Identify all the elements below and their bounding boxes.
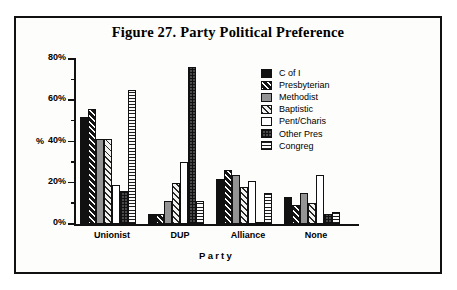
legend-item-label: Presbyterian: [279, 80, 330, 90]
bar: [80, 117, 88, 224]
bar: [96, 139, 104, 224]
bar-group-bars: [80, 59, 136, 224]
legend-item-label: Baptistic: [279, 104, 313, 114]
legend-swatch-icon: [261, 117, 272, 126]
bar: [232, 175, 240, 225]
bar: [148, 214, 156, 224]
bar: [256, 222, 264, 224]
legend-swatch-icon: [261, 129, 272, 138]
legend-item-label: C of I: [279, 68, 301, 78]
legend-swatch-icon: [261, 105, 272, 114]
legend-swatch-icon: [261, 93, 272, 102]
bar: [300, 193, 308, 224]
legend-item: Baptistic: [261, 103, 381, 115]
chart-legend: C of IPresbyterianMethodistBaptisticPent…: [261, 67, 381, 152]
figure-frame: Figure 27. Party Political Preference % …: [14, 16, 442, 274]
bar: [172, 183, 180, 224]
bar: [88, 109, 96, 225]
x-axis-line: [74, 224, 359, 226]
chart-title: Figure 27. Party Political Preference: [16, 24, 440, 41]
bar: [332, 212, 340, 224]
legend-item: Pent/Charis: [261, 115, 381, 127]
legend-item: C of I: [261, 67, 381, 79]
bar-group-bars: [148, 59, 204, 224]
bar: [104, 139, 112, 224]
bar: [324, 214, 332, 224]
bar: [216, 179, 224, 224]
y-axis-tick-label: 20%: [20, 176, 66, 186]
legend-item-label: Congreg: [279, 141, 314, 151]
y-axis-tick-label: 40%: [20, 135, 66, 145]
bar: [156, 214, 164, 224]
legend-item-label: Pent/Charis: [279, 116, 326, 126]
bar: [284, 197, 292, 224]
bar: [120, 191, 128, 224]
bar: [264, 193, 272, 224]
legend-item-label: Methodist: [279, 92, 318, 102]
x-axis-title: Party: [74, 250, 359, 261]
legend-item: Other Pres: [261, 127, 381, 139]
y-axis-tick-label: 0%: [20, 217, 66, 227]
bar: [128, 90, 136, 224]
legend-item: Presbyterian: [261, 79, 381, 91]
y-axis-tick-label: 60%: [20, 93, 66, 103]
legend-item: Congreg: [261, 140, 381, 152]
legend-swatch-icon: [261, 81, 272, 90]
bar: [240, 187, 248, 224]
bar: [292, 205, 300, 224]
legend-item: Methodist: [261, 91, 381, 103]
legend-item-label: Other Pres: [279, 129, 323, 139]
legend-swatch-icon: [261, 141, 272, 150]
x-axis-category-label: None: [266, 230, 366, 240]
legend-swatch-icon: [261, 69, 272, 78]
bar: [224, 170, 232, 224]
bar: [248, 181, 256, 224]
bar: [180, 162, 188, 224]
bar: [188, 67, 196, 224]
bar: [196, 201, 204, 224]
y-axis-tick-label: 80%: [20, 52, 66, 62]
bar: [164, 201, 172, 224]
bar: [316, 175, 324, 225]
bar: [112, 185, 120, 224]
bar: [308, 203, 316, 224]
